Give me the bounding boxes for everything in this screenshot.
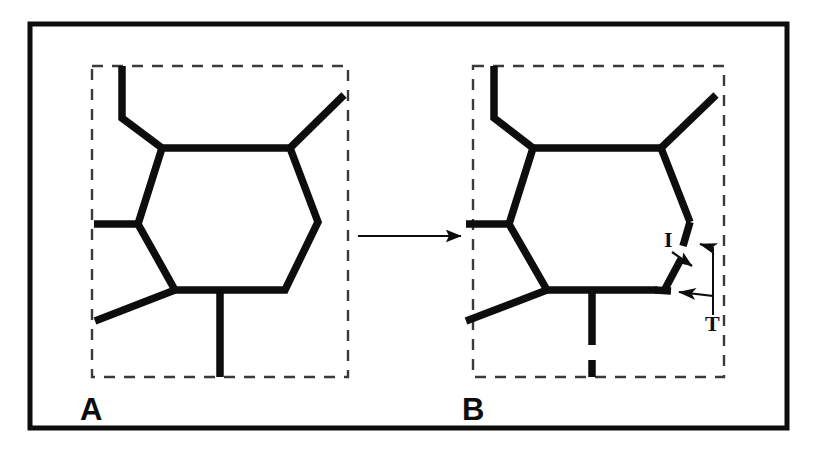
- label-t-text: T: [705, 311, 720, 336]
- label-i-text: I: [664, 227, 673, 252]
- figure-canvas: A: [0, 0, 813, 451]
- panel-b-letter: B: [462, 392, 484, 427]
- figure-container: A: [0, 0, 813, 451]
- panel-a-letter: A: [80, 392, 102, 427]
- terminal-end-lower: [655, 290, 671, 291]
